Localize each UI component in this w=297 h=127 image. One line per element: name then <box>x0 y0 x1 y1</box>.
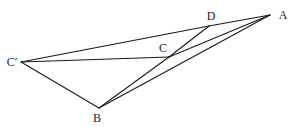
segment-b-c <box>99 57 169 108</box>
geometry-figure: A D C C′ B <box>0 0 297 127</box>
segment-cprime-b <box>21 62 99 108</box>
label-c: C <box>159 42 167 54</box>
label-a: A <box>279 9 288 21</box>
segment-c-d <box>169 26 209 57</box>
segment-b-a <box>99 15 270 108</box>
segment-c-a <box>169 15 270 57</box>
label-d: D <box>207 10 216 22</box>
label-b: B <box>93 112 101 124</box>
label-c-prime: C′ <box>7 56 18 68</box>
figure-lines <box>0 0 297 127</box>
segment-cprime-d <box>21 26 209 62</box>
